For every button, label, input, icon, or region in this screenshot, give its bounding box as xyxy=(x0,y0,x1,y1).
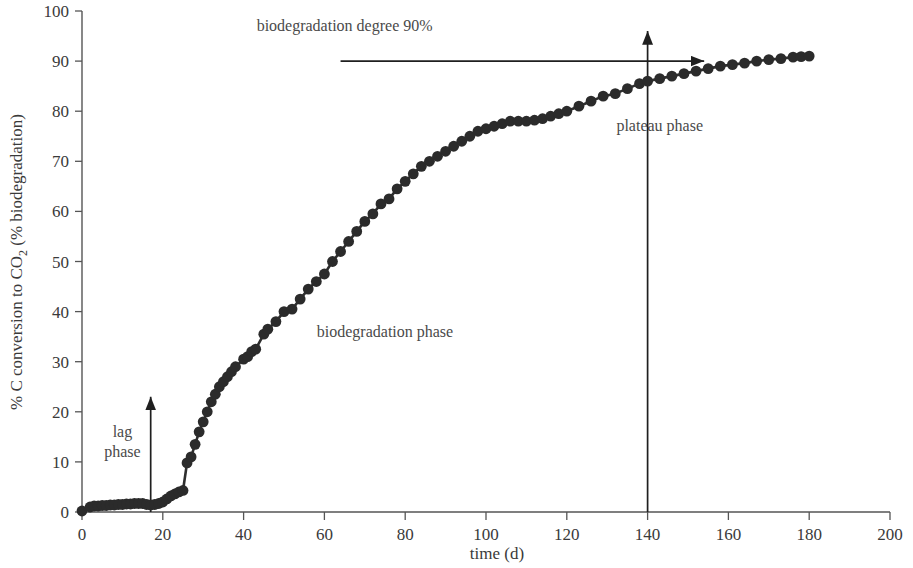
data-point xyxy=(271,316,282,327)
x-tick-label: 60 xyxy=(316,525,333,544)
x-tick-label: 200 xyxy=(877,525,903,544)
data-point xyxy=(776,53,787,64)
y-tick-label: 0 xyxy=(61,503,70,522)
data-point xyxy=(654,73,665,84)
data-point xyxy=(679,68,690,79)
x-tick-label: 0 xyxy=(78,525,87,544)
data-point xyxy=(178,485,189,496)
data-point xyxy=(287,304,298,315)
data-point xyxy=(250,344,261,355)
data-point xyxy=(610,88,621,99)
data-point xyxy=(367,209,378,220)
x-tick-label: 160 xyxy=(716,525,742,544)
data-point xyxy=(763,54,774,65)
y-tick-label: 80 xyxy=(52,102,69,121)
data-point xyxy=(400,176,411,187)
data-point xyxy=(739,58,750,69)
data-point xyxy=(295,294,306,305)
data-point xyxy=(194,426,205,437)
x-tick-label: 120 xyxy=(554,525,580,544)
data-point xyxy=(751,56,762,67)
data-point xyxy=(666,71,677,82)
y-tick-label: 30 xyxy=(52,353,69,372)
data-point xyxy=(642,76,653,87)
data-point xyxy=(311,276,322,287)
data-point xyxy=(262,324,273,335)
y-tick-label: 70 xyxy=(52,152,69,171)
x-tick-label: 40 xyxy=(235,525,252,544)
data-point xyxy=(343,236,354,247)
y-tick-label: 40 xyxy=(52,303,69,322)
data-point xyxy=(351,226,362,237)
data-point xyxy=(335,246,346,257)
data-point xyxy=(190,439,201,450)
y-tick-label: 10 xyxy=(52,453,69,472)
data-point xyxy=(359,216,370,227)
data-point xyxy=(186,451,197,462)
biodegradation-chart: 0102030405060708090100 02040608010012014… xyxy=(0,0,913,568)
data-point xyxy=(715,61,726,72)
annotation-biodeg-degree: biodegradation degree 90% xyxy=(257,17,433,35)
y-tick-label: 50 xyxy=(52,253,69,272)
data-point xyxy=(198,416,209,427)
data-point xyxy=(202,406,213,417)
data-point xyxy=(561,106,572,117)
data-point xyxy=(727,59,738,70)
x-axis-title: time (d) xyxy=(470,544,524,563)
y-tick-label: 100 xyxy=(44,2,70,21)
data-point xyxy=(327,256,338,267)
data-point xyxy=(303,284,314,295)
data-point xyxy=(319,269,330,280)
y-axis: 0102030405060708090100 xyxy=(44,2,83,522)
x-tick-label: 140 xyxy=(635,525,661,544)
data-point xyxy=(804,51,815,62)
svg-text:% C conversion to CO2 (% biode: % C conversion to CO2 (% biodegradation) xyxy=(7,114,30,410)
x-tick-label: 180 xyxy=(796,525,822,544)
x-axis: 020406080100120140160180200 xyxy=(78,512,903,544)
data-point xyxy=(703,63,714,74)
series-markers xyxy=(77,51,815,517)
annotation-lag-phase: lagphase xyxy=(104,423,140,461)
data-point xyxy=(392,183,403,194)
chart-canvas: 0102030405060708090100 02040608010012014… xyxy=(0,0,913,568)
x-tick-label: 80 xyxy=(397,525,414,544)
annotation-plateau-phase: plateau phase xyxy=(616,117,703,135)
data-point xyxy=(408,168,419,179)
data-point xyxy=(598,91,609,102)
y-tick-label: 60 xyxy=(52,202,69,221)
data-point xyxy=(691,66,702,77)
data-point xyxy=(230,361,241,372)
y-tick-label: 20 xyxy=(52,403,69,422)
data-point xyxy=(384,193,395,204)
y-tick-label: 90 xyxy=(52,52,69,71)
data-point xyxy=(574,101,585,112)
annotation-biodeg-phase: biodegradation phase xyxy=(317,323,453,341)
y-axis-title: % C conversion to CO2 (% biodegradation) xyxy=(7,114,30,410)
data-point xyxy=(622,83,633,94)
x-tick-label: 20 xyxy=(154,525,171,544)
data-point xyxy=(586,96,597,107)
x-tick-label: 100 xyxy=(473,525,499,544)
